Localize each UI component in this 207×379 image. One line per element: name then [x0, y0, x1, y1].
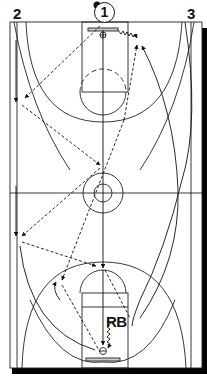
court-diagram — [0, 0, 207, 379]
player-2-label: 2 — [13, 6, 21, 21]
pass-1-to-2 — [25, 26, 100, 98]
cut-3-wide — [132, 22, 192, 326]
drill-paths — [16, 22, 192, 352]
pass-to-bottom-left — [62, 120, 124, 280]
cut-2-curl — [20, 246, 95, 350]
pass-2-to-bottom — [22, 242, 96, 266]
cut-3-return — [140, 46, 178, 318]
bottom-key — [82, 293, 128, 368]
pass-3-up — [124, 45, 137, 120]
dribble-top — [118, 30, 137, 38]
cut-loop-left — [55, 282, 60, 300]
top-coaching-arc-right — [140, 22, 194, 170]
pass-bottom-diag-2 — [105, 270, 130, 318]
player-1-circled-label: 1 — [94, 2, 115, 23]
top-coaching-arc — [14, 22, 70, 170]
pass-bottom-diag-1 — [62, 285, 100, 352]
rebounder-label: RB — [106, 314, 127, 329]
pass-center-to-2-low — [22, 168, 100, 236]
bottom-basket — [86, 348, 120, 362]
player-3-label: 3 — [187, 6, 195, 21]
